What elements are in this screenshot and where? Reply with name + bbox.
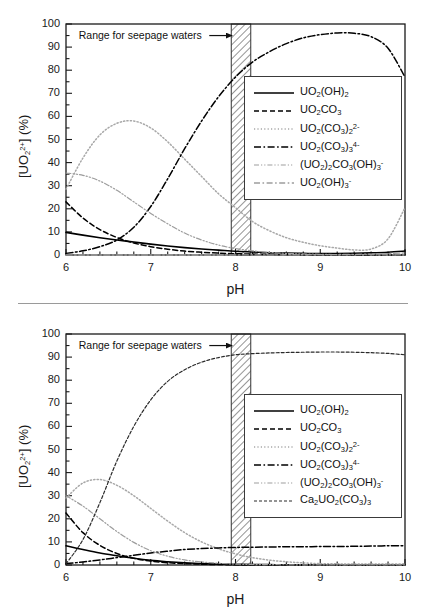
legend-item: UO2CO3: [253, 420, 395, 438]
legend-label: (UO2)2CO3(OH)3-: [300, 475, 383, 491]
legend-item: Ca2UO2(CO3)3: [253, 492, 395, 510]
legend-item: UO2(CO3)34-: [253, 138, 395, 156]
x-tick-label: 10: [389, 571, 421, 583]
legend-label: UO2(CO3)22-: [300, 121, 360, 137]
legend-line-swatch: [253, 476, 295, 490]
y-tick-label: 30: [28, 489, 60, 501]
x-tick-label: 9: [304, 571, 336, 583]
x-tick-label: 10: [389, 261, 421, 273]
y-tick-label: 20: [28, 512, 60, 524]
legend-label: UO2CO3: [300, 104, 341, 118]
x-tick-label: 9: [304, 261, 336, 273]
legend-label: Ca2UO2(CO3)3: [300, 494, 371, 508]
legend-item: UO2(OH)3-: [253, 174, 395, 192]
legend-line-swatch: [253, 86, 295, 100]
y-tick-label: 0: [28, 558, 60, 570]
legend-item: UO2(OH)2: [253, 84, 395, 102]
y-tick-label: 80: [28, 63, 60, 75]
legend-item: UO2(OH)2: [253, 402, 395, 420]
y-tick-label: 60: [28, 419, 60, 431]
legend-item: UO2(CO3)22-: [253, 120, 395, 138]
legend-item: UO2(CO3)22-: [253, 438, 395, 456]
chart-panel-bottom: [UO22+] (%) pH Range for seepage waters …: [0, 310, 423, 610]
y-tick-label: 100: [28, 327, 60, 339]
y-tick-label: 90: [28, 350, 60, 362]
y-tick-label: 0: [28, 248, 60, 260]
legend-item: UO2CO3: [253, 102, 395, 120]
legend-label: (UO2)2CO3(OH)3-: [300, 157, 383, 173]
legend-line-swatch: [253, 158, 295, 172]
legend-label: UO2(OH)3-: [300, 175, 351, 191]
legend-label: UO2(OH)2: [300, 86, 349, 100]
legend-line-swatch: [253, 458, 295, 472]
y-tick-label: 30: [28, 179, 60, 191]
chart-panel-top: [UO22+] (%) pH Range for seepage waters …: [0, 0, 423, 300]
legend-line-swatch: [253, 104, 295, 118]
legend-label: UO2(CO3)34-: [300, 139, 360, 155]
x-tick-label: 8: [220, 571, 252, 583]
legend-item: UO2(CO3)34-: [253, 456, 395, 474]
x-tick-label: 6: [50, 261, 82, 273]
legend-label: UO2(CO3)22-: [300, 439, 360, 455]
x-tick-label: 8: [220, 261, 252, 273]
legend-line-swatch: [253, 176, 295, 190]
legend-line-swatch: [253, 140, 295, 154]
y-tick-label: 10: [28, 535, 60, 547]
x-tick-label: 7: [135, 261, 167, 273]
panel-divider: [18, 303, 408, 304]
y-tick-label: 10: [28, 225, 60, 237]
legend-label: UO2CO3: [300, 422, 341, 436]
y-tick-label: 60: [28, 109, 60, 121]
y-tick-label: 90: [28, 40, 60, 52]
y-tick-label: 50: [28, 443, 60, 455]
y-tick-label: 70: [28, 86, 60, 98]
legend-label: UO2(CO3)34-: [300, 457, 360, 473]
legend-line-swatch: [253, 494, 295, 508]
y-tick-label: 70: [28, 396, 60, 408]
legend-line-swatch: [253, 422, 295, 436]
y-tick-label: 50: [28, 133, 60, 145]
y-tick-label: 20: [28, 202, 60, 214]
y-tick-label: 40: [28, 466, 60, 478]
x-tick-label: 6: [50, 571, 82, 583]
legend-line-swatch: [253, 440, 295, 454]
legend-line-swatch: [253, 404, 295, 418]
legend-top: UO2(OH)2UO2CO3UO2(CO3)22-UO2(CO3)34-(UO2…: [244, 76, 402, 200]
legend-item: (UO2)2CO3(OH)3-: [253, 474, 395, 492]
legend-bottom: UO2(OH)2UO2CO3UO2(CO3)22-UO2(CO3)34-(UO2…: [244, 394, 402, 518]
y-tick-label: 100: [28, 17, 60, 29]
legend-item: (UO2)2CO3(OH)3-: [253, 156, 395, 174]
y-tick-label: 80: [28, 373, 60, 385]
legend-label: UO2(OH)2: [300, 404, 349, 418]
x-tick-label: 7: [135, 571, 167, 583]
legend-line-swatch: [253, 122, 295, 136]
figure-container: [UO22+] (%) pH Range for seepage waters …: [0, 0, 423, 615]
y-tick-label: 40: [28, 156, 60, 168]
